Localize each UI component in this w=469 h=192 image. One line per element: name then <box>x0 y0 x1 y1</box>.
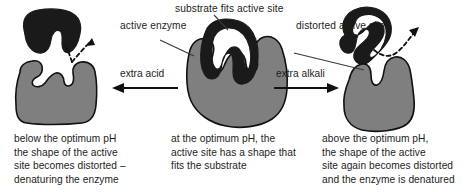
label-extra-acid: extra acid <box>120 68 164 79</box>
extra-acid-arrowhead <box>112 83 124 93</box>
label-distorted-active-site: distorted active site <box>296 20 385 32</box>
label-extra-alkali: extra alkali <box>276 68 325 79</box>
dashed-arrowhead-right <box>409 27 419 37</box>
substrate-shape-acidic <box>24 9 81 53</box>
enzyme-ph-diagram: active enzyme substrate fits active site… <box>0 0 469 192</box>
caption-alkaline: above the optimum pH, the shape of the a… <box>322 132 455 186</box>
dashed-arrowhead-left <box>86 38 95 46</box>
extra-alkali-arrowhead <box>327 83 339 93</box>
leader-line-active-enzyme <box>160 40 194 56</box>
label-substrate-fits-active-site: substrate fits active site <box>175 3 283 15</box>
label-active-enzyme: active enzyme <box>120 20 186 32</box>
enzyme-shape-acidic <box>16 61 97 125</box>
caption-optimum: at the optimum pH, the active site has a… <box>171 132 296 173</box>
caption-acidic: below the optimum pH the shape of the ac… <box>14 132 126 186</box>
